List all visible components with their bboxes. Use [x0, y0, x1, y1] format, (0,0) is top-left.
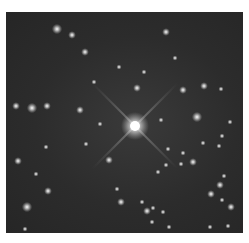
star — [43, 102, 51, 110]
star — [68, 31, 76, 39]
star-field-canvas — [6, 12, 243, 233]
star — [27, 103, 37, 113]
star — [12, 102, 20, 110]
star — [219, 197, 224, 202]
star — [155, 169, 160, 174]
star — [33, 171, 38, 176]
star — [14, 157, 22, 165]
star — [76, 106, 84, 114]
star — [165, 146, 170, 151]
star — [221, 173, 226, 178]
star — [149, 219, 154, 224]
star — [160, 209, 165, 214]
star — [83, 141, 88, 146]
star — [43, 144, 48, 149]
star — [172, 55, 177, 60]
star — [114, 186, 119, 191]
star — [180, 150, 185, 155]
star — [189, 158, 197, 166]
star — [81, 48, 89, 56]
bright-star-core — [130, 121, 140, 131]
star — [216, 143, 221, 148]
star — [227, 203, 235, 211]
star — [52, 24, 62, 34]
star — [219, 133, 224, 138]
star — [141, 69, 146, 74]
star — [163, 162, 168, 167]
star — [143, 207, 151, 215]
star — [192, 112, 202, 122]
star — [44, 187, 52, 195]
star — [105, 156, 113, 164]
star — [200, 140, 205, 145]
star — [179, 86, 187, 94]
star — [225, 223, 230, 228]
star — [133, 84, 141, 92]
star — [97, 121, 102, 126]
star — [158, 117, 163, 122]
star — [216, 181, 224, 189]
star — [207, 190, 215, 198]
star — [166, 224, 171, 229]
star — [200, 82, 208, 90]
star — [150, 205, 155, 210]
star — [218, 86, 223, 91]
star — [139, 199, 144, 204]
star — [22, 202, 32, 212]
star-field-image — [6, 12, 243, 233]
star — [207, 224, 212, 229]
star — [91, 79, 96, 84]
star — [227, 119, 232, 124]
star — [162, 28, 170, 36]
star — [178, 161, 183, 166]
star — [117, 198, 125, 206]
star — [116, 64, 121, 69]
star — [22, 226, 27, 231]
